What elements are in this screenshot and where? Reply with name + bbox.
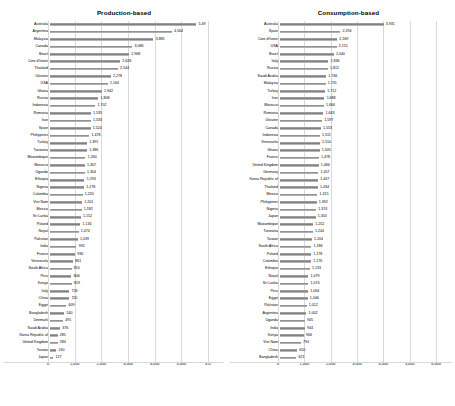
bar-value-label: 240 bbox=[56, 349, 64, 353]
bar-track: 2,169 bbox=[280, 36, 452, 43]
bar-value-label: 1,186 bbox=[311, 245, 322, 249]
x-tick-label: 6,000 bbox=[431, 362, 441, 366]
category-label: Pakistan bbox=[230, 304, 280, 308]
bar-row: Korea Republic of285 bbox=[4, 332, 224, 339]
bar-track: 1,597 bbox=[280, 117, 452, 124]
bar-track: 810 bbox=[50, 265, 224, 272]
bar bbox=[280, 201, 317, 204]
category-label: Brazil bbox=[230, 52, 280, 56]
bar-track: 1,252 bbox=[280, 221, 452, 228]
bar-value-label: 1,457 bbox=[318, 171, 329, 175]
bar-row: Pakistan1,039 bbox=[4, 236, 224, 243]
x-tick-label: 3,000 bbox=[352, 362, 362, 366]
bar-track: 540 bbox=[50, 310, 224, 317]
bar-track: 1,046 bbox=[280, 295, 452, 302]
bar bbox=[280, 127, 321, 130]
category-label: Ethiopia bbox=[230, 267, 280, 271]
bar-value-label: 1,478 bbox=[319, 156, 330, 160]
bar-value-label: 992 bbox=[76, 245, 84, 249]
bar-value-label: 1,511 bbox=[320, 134, 331, 138]
consumption-bar-rows: Australia3,931Spain2,294Cote d'Ivoire2,1… bbox=[230, 21, 452, 362]
bar bbox=[280, 290, 308, 293]
bar-row: Cote d'Ivoire2,169 bbox=[230, 36, 452, 43]
bar-value-label: 621 bbox=[296, 356, 304, 360]
bar-track: 1,702 bbox=[50, 102, 224, 109]
x-tick-label: 5,000 bbox=[405, 362, 415, 366]
category-label: India bbox=[4, 245, 50, 249]
bar-track: 3,931 bbox=[280, 21, 452, 28]
bar-track: 1,386 bbox=[50, 147, 224, 154]
x-tick-label: 3,000 bbox=[123, 362, 133, 366]
bar-row: Ukraine2,278 bbox=[4, 73, 224, 80]
bar-track: 794 bbox=[280, 339, 452, 346]
category-label: Uganda bbox=[4, 171, 50, 175]
production-plot-area: Australia5,49Argentina4,564Malaysia3,881… bbox=[4, 21, 224, 372]
bar-value-label: 2,626 bbox=[120, 60, 131, 64]
bar-value-label: 936 bbox=[75, 252, 83, 256]
bar-row: Viet Nam794 bbox=[230, 339, 452, 346]
bar-row: Brazil2,040 bbox=[230, 51, 452, 58]
bar-row: Argentina1,002 bbox=[230, 310, 452, 317]
bar bbox=[280, 209, 316, 212]
bar-track: 2,968 bbox=[50, 51, 224, 58]
bar-track: 2,040 bbox=[280, 51, 452, 58]
bar-value-label: 810 bbox=[72, 267, 80, 271]
bar-row: United Kingdom284 bbox=[4, 339, 224, 346]
bar-value-label: 1,176 bbox=[311, 260, 322, 264]
bar-value-label: 1,002 bbox=[306, 311, 317, 315]
category-label: Ghana bbox=[230, 149, 280, 153]
category-label: Mexico bbox=[4, 208, 50, 212]
bar-value-label: 491 bbox=[63, 319, 71, 323]
bar-row: China720 bbox=[4, 295, 224, 302]
bar-track: 1,201 bbox=[50, 199, 224, 206]
bar-track: 2,544 bbox=[50, 65, 224, 72]
bar-row: South Africa810 bbox=[4, 265, 224, 272]
category-label: Ukraine bbox=[230, 119, 280, 123]
bar bbox=[280, 305, 307, 308]
bar-value-label: 861 bbox=[73, 260, 81, 264]
bar bbox=[280, 253, 311, 256]
bar-value-label: 1,510 bbox=[320, 141, 331, 145]
bar-track: 1,808 bbox=[50, 95, 224, 102]
bar bbox=[50, 90, 102, 93]
bar-value-label: 1,374 bbox=[316, 208, 327, 212]
bar-track: 621 bbox=[280, 354, 452, 361]
category-label: Spain bbox=[4, 126, 50, 130]
bar bbox=[50, 179, 84, 182]
x-tick-label: 4,000 bbox=[150, 362, 160, 366]
bar bbox=[50, 260, 73, 263]
bar-track: 936 bbox=[50, 251, 224, 258]
bar-track: 1,133 bbox=[280, 265, 452, 272]
bar bbox=[50, 312, 64, 315]
bar-row: India944 bbox=[230, 325, 452, 332]
bar-value-label: 1,350 bbox=[316, 215, 327, 219]
bar-row: Bangladesh540 bbox=[4, 310, 224, 317]
bar bbox=[50, 112, 91, 115]
bar-track: 491 bbox=[50, 317, 224, 324]
category-label: Poland bbox=[4, 223, 50, 227]
bar bbox=[50, 216, 81, 219]
bar-row: Taiwan1,204 bbox=[230, 236, 452, 243]
bar-track: 1,511 bbox=[280, 132, 452, 139]
bar-value-label: 726 bbox=[69, 289, 77, 293]
category-label: Mozambique bbox=[230, 223, 280, 227]
category-label: Spain bbox=[230, 30, 280, 34]
bar-value-label: 1,392 bbox=[317, 200, 328, 204]
bar-row: Thailand1,434 bbox=[230, 184, 452, 191]
bar-value-label: 2,164 bbox=[108, 82, 119, 86]
category-label: United Kingdom bbox=[230, 163, 280, 167]
bar bbox=[280, 31, 340, 34]
bar-value-label: 540 bbox=[64, 311, 72, 315]
bar-row: Colombia1,176 bbox=[230, 258, 452, 265]
category-label: Romania bbox=[230, 112, 280, 116]
bar-row: Italy1,836 bbox=[230, 58, 452, 65]
category-label: Uganda bbox=[230, 319, 280, 323]
bar-value-label: 3,086 bbox=[132, 45, 143, 49]
bar-track: 1,186 bbox=[280, 243, 452, 250]
bar bbox=[50, 31, 172, 34]
bar-row: Romania1,643 bbox=[230, 110, 452, 117]
bar-row: Peru806 bbox=[4, 273, 224, 280]
bar-track: 3,086 bbox=[50, 43, 224, 50]
bar bbox=[50, 246, 76, 249]
bar bbox=[50, 305, 66, 308]
